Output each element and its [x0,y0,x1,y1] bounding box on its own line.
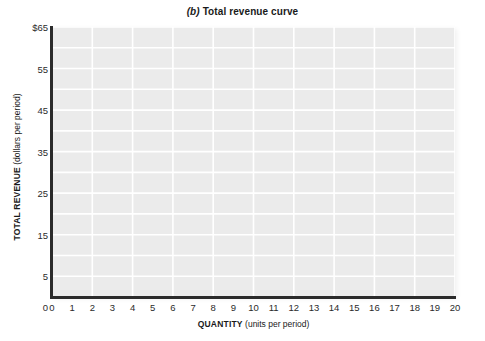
y-tick-label: $65 [2,22,48,33]
y-tick-label: 55 [2,63,48,74]
x-tick-label: 7 [190,302,195,313]
y-tick-label: 15 [2,229,48,240]
x-tick-label: 14 [329,302,340,313]
x-tick-label: 15 [349,302,360,313]
x-tick-label: 18 [409,302,420,313]
x-tick-label: 0 [49,302,54,313]
x-axis-title-strong: QUANTITY [198,319,243,329]
y-axis-line [50,26,53,299]
x-axis-title-units: (units per period) [245,319,309,329]
y-axis-title-units: (dollars per period) [12,93,22,164]
x-tick-label: 10 [248,302,259,313]
plot-area [52,27,455,297]
x-tick-label: 12 [289,302,300,313]
x-axis-title: QUANTITY (units per period) [52,319,455,329]
y-tick-label: 5 [2,271,48,282]
x-tick-label: 6 [170,302,175,313]
x-tick-label: 2 [90,302,95,313]
chart-figure: (b) Total revenue curve 51525354555$650 … [0,0,485,341]
x-tick-label: 17 [389,302,400,313]
x-tick-label: 8 [211,302,216,313]
y-axis-title-strong: TOTAL REVENUE [12,167,22,240]
x-tick-label: 19 [430,302,441,313]
x-axis-line [50,296,456,299]
panel-letter: (b) [187,6,200,17]
y-axis-tick-labels: 51525354555$650 [0,0,48,341]
x-tick-label: 13 [309,302,320,313]
x-tick-label: 1 [69,302,74,313]
x-tick-label: 16 [369,302,380,313]
y-tick-label: 45 [2,105,48,116]
y-tick-label: 35 [2,146,48,157]
x-tick-label: 20 [450,302,461,313]
y-tick-label: 25 [2,188,48,199]
x-tick-label: 9 [231,302,236,313]
chart-title: (b) Total revenue curve [0,6,485,17]
x-tick-label: 3 [110,302,115,313]
x-tick-label: 4 [130,302,135,313]
gridlines [52,27,455,297]
y-axis-title-light [12,165,22,167]
chart-title-text: Total revenue curve [200,6,299,17]
x-tick-label: 5 [150,302,155,313]
x-axis-tick-labels: 01234567891011121314151617181920 [0,302,485,318]
x-tick-label: 11 [269,302,279,313]
y-axis-title: TOTAL REVENUE (dollars per period) [12,67,22,267]
